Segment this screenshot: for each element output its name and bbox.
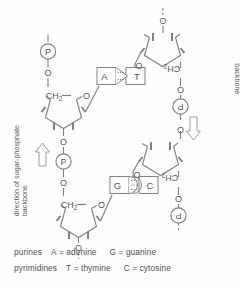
phosphate-label-right-upper: P [177,102,183,112]
svg-text:CH2: CH2 [163,63,180,74]
oxygen-right-lower: O [175,194,182,204]
methylene-left-upper: CH2 [46,91,63,102]
ring-oxygen-left-upper: O [83,91,90,101]
left-direction-label-line1: direction of sugar-phosphate [13,86,21,216]
phosphate-label-right-lower: P [175,211,181,221]
ring-oxygen-right-lower: O [133,170,140,180]
ring-oxygen-right-upper: O [135,61,142,71]
oxygen-left-mid: O [60,137,67,147]
oxygen-left-lower: O [60,178,67,188]
legend-category-purines: purines [14,247,42,257]
svg-text:CH2: CH2 [46,91,63,102]
legend-name-adenine: adenine [66,247,96,257]
phosphate-label-left-lower: P [60,157,66,167]
oxygen-right-upper: O [177,85,184,95]
right-direction-label-line2: backbone [233,63,240,193]
legend-name-guanine: guanine [126,247,156,257]
base-label-A: A [101,71,108,82]
svg-text:CH2: CH2 [161,172,178,183]
right-upper-sugar-ring [141,33,185,67]
left-direction-arrow-up [36,143,50,166]
legend-category-pyrimidines: pyrimidines [14,263,57,273]
base-label-C: C [147,180,154,191]
dna-diagram-canvas: P P P P O O O O O O CH2 CH2 O O O O [0,0,240,288]
right-direction-label: direction of sugar-phosphate backbone [233,63,240,193]
svg-text:CH2: CH2 [61,200,78,211]
base-label-T: T [134,71,140,82]
left-direction-label-line2: backbone [21,86,29,216]
left-direction-label: direction of sugar-phosphate backbone [13,86,29,216]
base-label-G: G [114,180,121,191]
legend-name-cytosine: cytosine [140,263,171,273]
legend: purines A = adenine G = guanine pyrimidi… [14,247,171,273]
legend-name-thymine: thymine [81,263,111,273]
oxygen-right-top: O [159,16,166,26]
right-lower-sugar-ring [139,142,183,176]
oxygen-right-mid: O [177,125,184,135]
right-direction-arrow-down [187,117,201,140]
ring-oxygen-left-lower: O [98,200,105,210]
phosphate-label-left-upper: P [45,47,51,57]
methylene-left-lower: CH2 [61,200,78,211]
dna-structure-svg: P P P P O O O O O O CH2 CH2 O O O O [0,0,240,288]
oxygen-left-upper: O [44,68,51,78]
methylene-right-lower: CH2 [161,172,178,183]
methylene-right-upper: CH2 [163,63,180,74]
legend-row-purines: purines A = adenine G = guanine [14,247,171,257]
legend-row-pyrimidines: pyrimidines T = thymine C = cytosine [14,263,171,273]
